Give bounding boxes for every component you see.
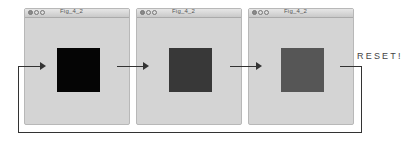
minimize-button-icon[interactable] [34, 10, 39, 15]
title-bar: Fig_4_2 [25, 9, 129, 18]
loop-line-left [18, 66, 19, 133]
figure-window-2: Fig_4_2 [136, 8, 242, 125]
zoom-button-icon[interactable] [264, 10, 269, 15]
window-title: Fig_4_2 [60, 8, 83, 14]
close-button-icon[interactable] [252, 10, 257, 15]
reset-label: RESET! [357, 51, 403, 61]
arrow-right-icon [256, 62, 262, 70]
arrow-line-2 [230, 66, 256, 67]
zoom-button-icon[interactable] [152, 10, 157, 15]
minimize-button-icon[interactable] [258, 10, 263, 15]
window-title: Fig_4_2 [172, 8, 195, 14]
arrow-right-icon [40, 62, 46, 70]
minimize-button-icon[interactable] [146, 10, 151, 15]
reset-connector-line [340, 66, 362, 67]
loop-line-right [361, 66, 362, 133]
color-square-black [57, 48, 100, 92]
loop-entry-line [18, 66, 40, 67]
arrow-line-1 [117, 66, 143, 67]
arrow-right-icon [143, 62, 149, 70]
title-bar: Fig_4_2 [137, 9, 241, 18]
title-bar: Fig_4_2 [249, 9, 353, 18]
window-title: Fig_4_2 [284, 8, 307, 14]
zoom-button-icon[interactable] [40, 10, 45, 15]
figure-window-3: Fig_4_2 [248, 8, 354, 125]
loop-line-bottom [18, 132, 362, 133]
close-button-icon[interactable] [140, 10, 145, 15]
color-square-dark-gray [169, 48, 212, 92]
color-square-gray [281, 48, 324, 92]
close-button-icon[interactable] [28, 10, 33, 15]
